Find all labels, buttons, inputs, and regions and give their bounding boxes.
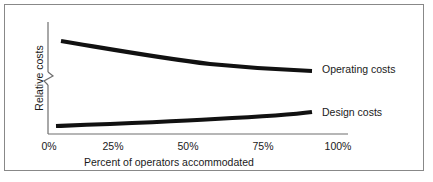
series-label-design-costs: Design costs [322, 106, 382, 118]
chart-plot-area [0, 0, 433, 182]
y-axis-break-icon [44, 72, 53, 85]
y-axis-title: Relative costs [33, 33, 45, 123]
x-tick-label-100: 100% [320, 140, 356, 152]
x-tick-label-25: 25% [98, 140, 128, 152]
x-tick-label-75: 75% [248, 140, 278, 152]
x-axis-title: Percent of operators accommodated [84, 156, 254, 168]
x-tick-label-0: 0% [36, 140, 62, 152]
series-curve-operating-costs [61, 41, 312, 71]
y-axis-title-wrapper: Relative costs [22, 0, 36, 182]
series-label-operating-costs: Operating costs [322, 63, 396, 75]
chart-figure: Relative costs 0% 25% 50% 75% 100% Perce… [0, 0, 433, 182]
series-curve-design-costs [56, 112, 312, 126]
x-tick-label-50: 50% [173, 140, 203, 152]
